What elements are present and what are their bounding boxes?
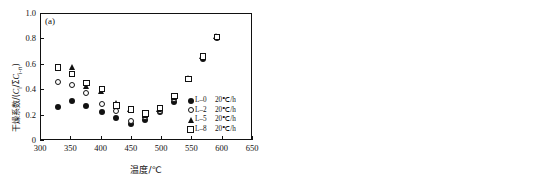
data-point [157,105,164,112]
y-tick [40,89,44,90]
data-point [113,102,120,109]
y-tick [40,115,44,116]
panel-b: (b) 温度/℃ 干燥系数/(Ci/ΣCi-n) 300350400450500… [274,0,548,182]
x-tick [161,136,162,140]
y-axis-title-a: 干燥系数/(Ci/ΣCi-n) [10,63,23,132]
y-tick [40,64,44,65]
legend-marker-icon [186,98,195,104]
legend-row: L–820℃/h [186,125,236,135]
legend-row: L–020℃/h [186,96,236,106]
data-point [55,64,62,71]
legend-marker-icon [186,117,195,123]
legend-series-rate: 20℃/h [215,106,236,116]
panel-label-a: (a) [45,16,55,26]
y-tick [40,13,44,14]
x-tick-label: 600 [207,143,237,153]
legend-series-name: L–8 [195,125,215,135]
x-tick [70,136,71,140]
x-tick [191,136,192,140]
y-tick-label: 0.6 [14,59,36,69]
legend-series-rate: 20℃/h [215,115,236,125]
x-tick [252,136,253,140]
data-point [142,110,149,117]
data-point [214,34,221,41]
x-tick [131,136,132,140]
data-point [171,93,178,100]
legend-series-name: L–2 [195,106,215,116]
y-tick-label: 0.4 [14,84,36,94]
y-tick-label: 0 [14,135,36,145]
x-tick-label: 350 [55,143,85,153]
data-point [69,71,76,78]
data-point [200,53,207,60]
legend-marker-icon [186,107,195,113]
x-axis-title-a: 温度/℃ [86,163,206,176]
y-tick-label: 0.8 [14,33,36,43]
x-tick [101,136,102,140]
data-point [185,76,192,83]
y-tick-label: 0.2 [14,110,36,120]
legend-series-rate: 20℃/h [215,96,236,106]
data-point [113,115,119,121]
data-point [69,64,75,70]
data-point [83,80,90,87]
legend-series-rate: 20℃/h [215,125,236,135]
legend-row: L–520℃/h [186,115,236,125]
data-point [99,101,105,107]
x-tick-label: 550 [176,143,206,153]
y-tick [40,140,44,141]
legend-marker-icon [186,126,195,133]
data-point [128,106,135,113]
panel-a: (a) 温度/℃ 干燥系数/(Ci/ΣCi-n) 300350400450500… [0,0,274,182]
legend-a: L–020℃/hL–220℃/hL–520℃/hL–820℃/h [186,96,236,134]
x-tick-label: 450 [116,143,146,153]
legend-series-name: L–5 [195,115,215,125]
legend-row: L–220℃/h [186,106,236,116]
data-point [128,118,134,124]
x-tick-label: 500 [146,143,176,153]
y-tick-label: 1.0 [14,8,36,18]
data-point [99,86,106,93]
legend-series-name: L–0 [195,96,215,106]
x-tick-label: 400 [86,143,116,153]
y-tick [40,38,44,39]
data-point [55,79,61,85]
x-tick [222,136,223,140]
figure-container: (a) 温度/℃ 干燥系数/(Ci/ΣCi-n) 300350400450500… [0,0,548,182]
x-tick-label: 650 [237,143,267,153]
